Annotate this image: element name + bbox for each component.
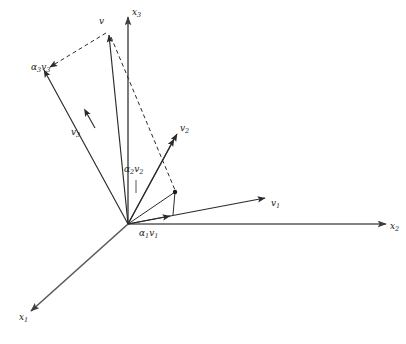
dashed-v-to-alpha3v3	[50, 33, 106, 67]
vector-v3-midarrow	[86, 112, 95, 128]
x1-axis-line	[31, 224, 128, 311]
x3-axis-label: x3	[132, 8, 141, 17]
dashed-lines-group	[50, 33, 175, 190]
vertex-dot	[173, 190, 177, 194]
vector-v-line	[109, 35, 128, 224]
vector-v-label: v	[99, 17, 104, 26]
x1-axis-label: x1	[19, 313, 28, 322]
component-alpha1-v1-label: α1v1	[139, 229, 158, 238]
vector-v3-label: v3	[71, 128, 80, 137]
vector-canvas	[0, 0, 406, 344]
parallelogram-edge-upper	[173, 192, 175, 215]
component-alpha3-v3-label: α3v3	[31, 63, 50, 72]
components-group	[128, 139, 174, 224]
component-alpha2-v2-label: α2v2	[124, 165, 143, 174]
axes-group	[31, 17, 386, 311]
vector-v1-label: v1	[271, 199, 280, 208]
component-alpha2-v2-line	[128, 139, 174, 224]
x2-axis-label: x2	[390, 222, 399, 231]
vector-decomposition-diagram: x1 x2 x3 v v1 v2 v3 α1v1 α2v2 α3v3	[0, 0, 406, 344]
vector-v2-label: v2	[180, 124, 189, 133]
